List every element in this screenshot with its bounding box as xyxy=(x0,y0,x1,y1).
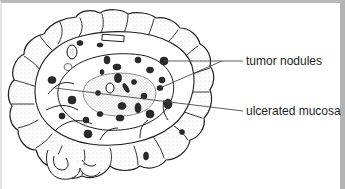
colon-illustration xyxy=(0,0,345,189)
label-ulcerated-mucosa: ulcerated mucosa xyxy=(246,104,341,118)
label-tumor-nodules: tumor nodules xyxy=(246,54,322,68)
